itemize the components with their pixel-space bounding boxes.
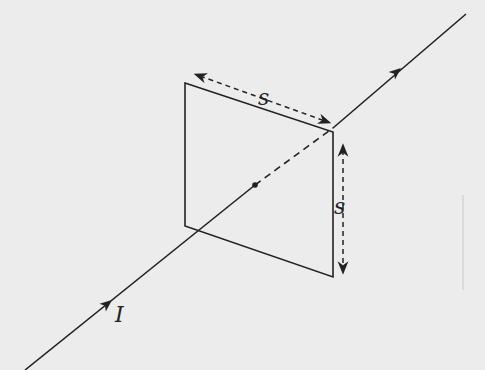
square-loop: [185, 83, 333, 277]
wire-lower-segment: [25, 185, 255, 370]
current-label: I: [115, 304, 124, 326]
current-arrow-upper-icon: [389, 64, 405, 79]
diagram-canvas: s s I: [0, 0, 485, 370]
side-label-right: s: [334, 196, 345, 218]
diagram-svg: [0, 0, 485, 370]
wire-upper-segment: [333, 14, 466, 128]
side-label-top: s: [258, 87, 269, 109]
loop-center-dot: [252, 182, 258, 188]
wire-hidden-segment: [255, 128, 333, 185]
